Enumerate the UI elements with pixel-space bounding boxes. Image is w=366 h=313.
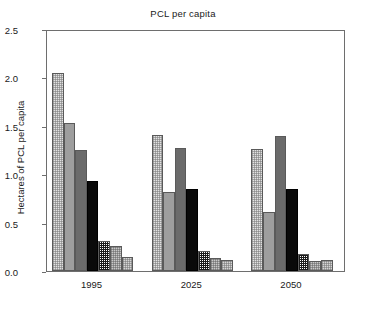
chart-title: PCL per capita (0, 8, 366, 19)
bar-series-4-1995 (87, 181, 99, 271)
y-tick-label: 1.0 (0, 170, 18, 181)
bar-series-6-1995 (110, 246, 122, 271)
bar-series-6-2050 (309, 261, 321, 271)
bar-series-7-2050 (321, 260, 333, 271)
y-tick-label: 2.0 (0, 73, 18, 84)
y-tick-label: 2.5 (0, 25, 18, 36)
bar-series-4-2050 (286, 189, 298, 271)
y-tick-mark (42, 272, 46, 273)
bar-series-6-2025 (210, 258, 222, 271)
bar-series-3-1995 (75, 150, 87, 271)
chart-figure: PCL per capita Hectares of PCL per capit… (0, 0, 366, 313)
bar-series-5-2025 (198, 251, 210, 271)
bar-series-3-2050 (275, 136, 287, 271)
bar-series-5-2050 (298, 254, 310, 271)
bar-series-4-2025 (186, 189, 198, 271)
bar-series-2-2050 (263, 212, 275, 271)
x-tick-label: 2050 (280, 279, 301, 290)
bar-series-1-1995 (52, 73, 64, 271)
plot-area (46, 30, 345, 272)
bar-series-2-1995 (64, 123, 76, 271)
y-tick-label: 0.0 (0, 267, 18, 278)
bar-series-1-2050 (251, 149, 263, 271)
x-tick-label: 2025 (181, 279, 202, 290)
bar-series-2-2025 (163, 192, 175, 271)
y-tick-label: 0.5 (0, 218, 18, 229)
bar-series-1-2025 (152, 135, 164, 271)
x-tick-label: 1995 (81, 279, 102, 290)
bar-series-7-2025 (221, 260, 233, 271)
bar-series-5-1995 (98, 241, 110, 271)
bar-series-7-1995 (122, 257, 134, 271)
bar-series-3-2025 (175, 148, 187, 271)
y-axis-label-text: Hectares of PCL per capita (15, 88, 26, 228)
y-tick-label: 1.5 (0, 121, 18, 132)
